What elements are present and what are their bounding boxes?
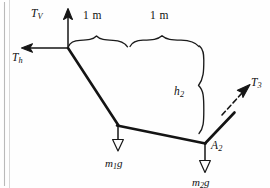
brace-span-two bbox=[130, 36, 199, 47]
brace-span-one bbox=[69, 36, 128, 47]
figure-canvas bbox=[0, 0, 270, 188]
label-tension-three: T3 bbox=[251, 77, 262, 91]
label-weight-one: m1g bbox=[105, 158, 123, 171]
cable-segment-left bbox=[68, 48, 119, 126]
physics-figure: TV Th T3 1 m 1 m h2 A2 m1g m2g bbox=[0, 0, 270, 188]
weight-one-arrowhead bbox=[113, 140, 124, 152]
label-tension-vertical: TV bbox=[31, 8, 43, 22]
label-joint-two: A2 bbox=[211, 140, 222, 154]
weight-two-arrowhead bbox=[200, 161, 211, 173]
cable-segment-middle bbox=[117, 126, 206, 144]
brace-height-two bbox=[199, 46, 204, 134]
label-weight-two: m2g bbox=[192, 177, 210, 188]
label-span-one: 1 m bbox=[83, 10, 102, 22]
label-height-two: h2 bbox=[174, 86, 184, 100]
tension-three-shaft bbox=[222, 93, 243, 116]
label-tension-horizontal: Th bbox=[12, 52, 23, 66]
label-span-two: 1 m bbox=[150, 10, 169, 22]
cable-segment-right bbox=[205, 113, 235, 144]
